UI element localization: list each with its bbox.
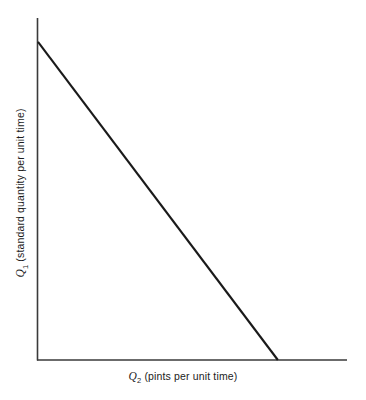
plot-area <box>0 0 366 400</box>
x-axis-symbol: Q <box>129 370 137 382</box>
chart-figure: Q2 (pints per unit time) Q1 (standard qu… <box>0 0 366 400</box>
data-series-line <box>38 42 278 360</box>
x-axis-label: Q2 (pints per unit time) <box>0 370 366 385</box>
x-axis-unit: (pints per unit time) <box>144 370 237 382</box>
